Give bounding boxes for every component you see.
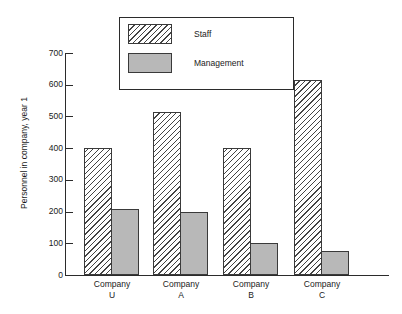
bar-group: [294, 45, 350, 275]
bar-staff: [223, 148, 251, 275]
legend: Staff Management: [119, 17, 294, 90]
y-axis-tick-label: 500: [30, 112, 63, 121]
y-axis-tick-label: 100: [30, 239, 63, 248]
y-axis-tick-label-text: 200: [35, 207, 63, 216]
legend-label-management: Management: [194, 58, 244, 68]
bar-management: [111, 209, 139, 275]
bar-management: [180, 212, 208, 275]
y-axis-tick-label: 600: [30, 80, 63, 89]
x-axis-line: [65, 275, 389, 276]
y-axis-tick-label: 700: [30, 49, 63, 58]
y-axis-tick-label: 400: [30, 144, 63, 153]
legend-swatch-staff-icon: [128, 24, 172, 44]
y-axis-tick-label-text: 700: [35, 49, 63, 58]
y-axis-tick-label: 0: [30, 271, 63, 280]
y-axis-tick-label-text: 100: [35, 239, 63, 248]
bar-chart: Personnel in company, year 1 01002003004…: [0, 0, 402, 314]
y-axis-tick-label-text: 400: [35, 144, 63, 153]
x-axis-category-label-line: Company: [277, 279, 367, 290]
y-axis-tick-label-text: 500: [35, 112, 63, 121]
bar-staff: [153, 112, 181, 275]
bar-staff: [294, 80, 322, 275]
x-axis-category-label-line: C: [277, 290, 367, 301]
y-axis-tick-label-text: 300: [35, 175, 63, 184]
legend-swatch-management-icon: [128, 53, 172, 73]
bar-staff: [84, 148, 112, 275]
y-axis-tick-label-text: 0: [35, 271, 63, 280]
bar-management: [321, 251, 349, 275]
y-axis-tick-label-text: 600: [35, 80, 63, 89]
y-axis-tick-label: 200: [30, 207, 63, 216]
y-axis-title: Personnel in company, year 1: [19, 73, 29, 233]
y-axis-tick-label: 300: [30, 175, 63, 184]
bar-management: [250, 243, 278, 275]
x-axis-category-label: CompanyC: [277, 279, 367, 301]
legend-label-staff: Staff: [194, 29, 211, 39]
